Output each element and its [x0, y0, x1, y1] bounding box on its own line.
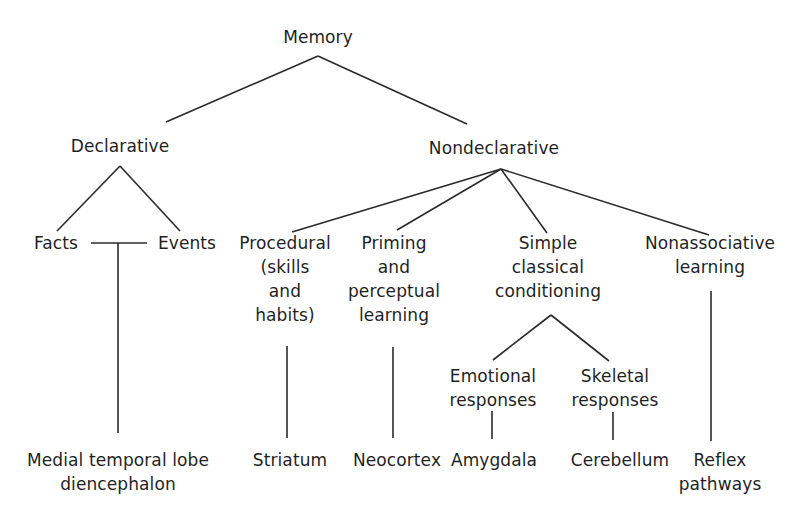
node-label-line: Skeletal — [572, 364, 659, 388]
node-label: Events — [158, 231, 216, 255]
node-nondeclarative: Nondeclarative — [429, 136, 559, 160]
node-facts: Facts — [34, 231, 78, 255]
memory-taxonomy-diagram: Memory Declarative Nondeclarative Facts … — [0, 0, 808, 522]
node-label-line: learning — [645, 255, 775, 279]
substrate-cerebellum: Cerebellum — [571, 448, 669, 472]
edge-declarative-facts — [57, 166, 120, 231]
substrate-neocortex: Neocortex — [353, 448, 441, 472]
node-label-line: Emotional — [450, 364, 537, 388]
node-nonassociative-learning: Nonassociative learning — [645, 231, 775, 279]
node-events: Events — [158, 231, 216, 255]
node-label-line: Priming — [348, 231, 440, 255]
node-priming: Priming and perceptual learning — [348, 231, 440, 327]
node-label-line: (skills — [239, 255, 330, 279]
node-label-line: and — [239, 279, 330, 303]
node-label-line: diencephalon — [27, 472, 209, 496]
node-simple-classical-conditioning: Simple classical conditioning — [495, 231, 601, 303]
edge-declarative-events — [120, 166, 180, 231]
node-memory: Memory — [283, 25, 353, 49]
node-label-line: learning — [348, 303, 440, 327]
node-procedural: Procedural (skills and habits) — [239, 231, 330, 327]
edge-memory-declarative — [166, 56, 318, 122]
node-label-line: conditioning — [495, 279, 601, 303]
edge-memory-nondeclarative — [318, 56, 467, 124]
node-label-line: Simple — [495, 231, 601, 255]
substrate-striatum: Striatum — [253, 448, 327, 472]
node-label-line: Reflex — [679, 448, 762, 472]
edge-simple-emotional — [493, 315, 551, 360]
node-label-line: pathways — [679, 472, 762, 496]
node-label-line: and — [348, 255, 440, 279]
node-label-line: Procedural — [239, 231, 330, 255]
node-label: Neocortex — [353, 448, 441, 472]
node-label-line: Medial temporal lobe — [27, 448, 209, 472]
node-label-line: classical — [495, 255, 601, 279]
node-label: Cerebellum — [571, 448, 669, 472]
node-label-line: responses — [572, 388, 659, 412]
edge-nondeclarative-simple — [501, 169, 547, 233]
substrate-medial-temporal-lobe: Medial temporal lobe diencephalon — [27, 448, 209, 496]
node-label: Nondeclarative — [429, 136, 559, 160]
node-label-line: perceptual — [348, 279, 440, 303]
substrate-reflex-pathways: Reflex pathways — [679, 448, 762, 496]
node-emotional-responses: Emotional responses — [450, 364, 537, 412]
node-label: Amygdala — [451, 448, 537, 472]
node-label: Striatum — [253, 448, 327, 472]
substrate-amygdala: Amygdala — [451, 448, 537, 472]
edge-simple-skeletal — [551, 315, 609, 361]
node-label-line: Nonassociative — [645, 231, 775, 255]
edge-nondeclarative-procedural — [292, 169, 501, 232]
node-label: Memory — [283, 25, 353, 49]
edge-nondeclarative-nonassociative — [501, 169, 709, 235]
node-label: Declarative — [71, 134, 169, 158]
node-label: Facts — [34, 231, 78, 255]
node-label-line: habits) — [239, 303, 330, 327]
node-declarative: Declarative — [71, 134, 169, 158]
node-skeletal-responses: Skeletal responses — [572, 364, 659, 412]
node-label-line: responses — [450, 388, 537, 412]
edge-nondeclarative-priming — [397, 169, 501, 230]
